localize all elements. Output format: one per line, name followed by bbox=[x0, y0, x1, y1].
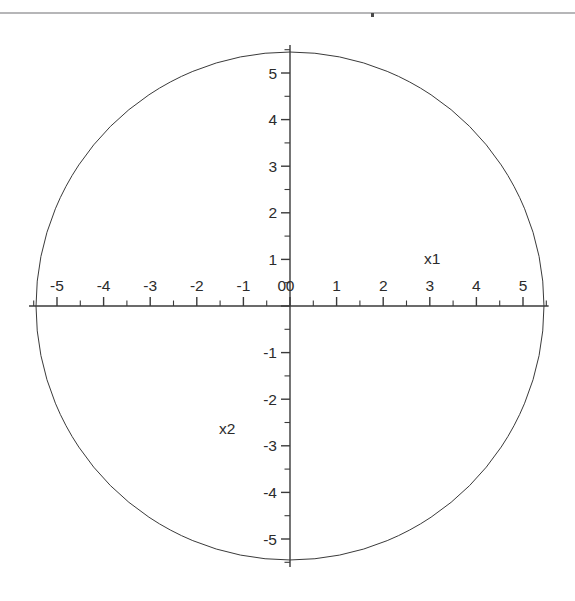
x-axis-tick-label: 2 bbox=[379, 277, 388, 294]
x-axis-tick-label: -4 bbox=[97, 277, 111, 294]
x-axis-name-label: x1 bbox=[424, 250, 440, 267]
y-axis-name-label: x2 bbox=[219, 420, 235, 437]
plot-figure: -5-4-3-2-1012345-5-4-3-2-1123450 x1x2 bbox=[0, 0, 575, 601]
x-axis-tick-label: -5 bbox=[50, 277, 64, 294]
y-axis-tick-label: 1 bbox=[268, 251, 277, 268]
x-axis-tick-label: 5 bbox=[519, 277, 528, 294]
x-axis-tick-label: -1 bbox=[237, 277, 251, 294]
scan-speck-artifact bbox=[371, 13, 374, 17]
scan-line-artifact bbox=[0, 12, 575, 14]
x-axis-tick-label: 3 bbox=[425, 277, 434, 294]
x-axis-tick-label: 0 bbox=[286, 277, 295, 294]
y-axis-tick-label: 2 bbox=[268, 204, 277, 221]
y-axis-tick-label: -5 bbox=[263, 531, 277, 548]
y-axis-tick-label: -3 bbox=[263, 437, 277, 454]
y-axis-tick-label-zero: 0 bbox=[277, 277, 286, 294]
plot-canvas: -5-4-3-2-1012345-5-4-3-2-1123450 x1x2 bbox=[0, 0, 575, 601]
y-axis-tick-label: 3 bbox=[268, 158, 277, 175]
x-axis-tick-label: -2 bbox=[190, 277, 204, 294]
y-axis-tick-label: -4 bbox=[263, 484, 277, 501]
x-axis-tick-label: 4 bbox=[472, 277, 481, 294]
y-axis-tick-label: -2 bbox=[263, 391, 277, 408]
x-axis-tick-label: -3 bbox=[143, 277, 157, 294]
y-axis-tick-label: 5 bbox=[268, 65, 277, 82]
axis-name-labels-layer: x1x2 bbox=[219, 250, 440, 437]
y-axis-tick-label: 4 bbox=[268, 111, 277, 128]
y-axis-tick-label: -1 bbox=[263, 344, 277, 361]
x-axis-tick-label: 1 bbox=[332, 277, 341, 294]
